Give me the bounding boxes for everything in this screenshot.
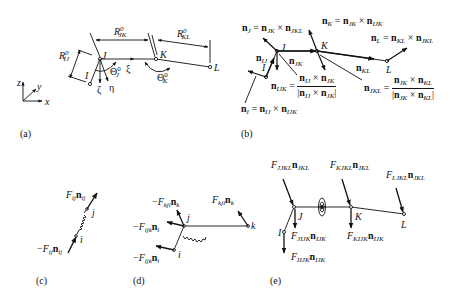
nJKL-formula: nJKL = nJK × nKL|nJK × nKL| — [364, 75, 434, 102]
dim-R-IJ: R0IJ — [59, 50, 69, 63]
nI-formula: nI = nIJ × nIJK — [241, 104, 297, 116]
c-node-j: j — [92, 208, 95, 218]
figure-canvas: z y x I J K L ξ ζ η R0IJ R0JK R0KL Θ0J Θ… — [0, 0, 450, 297]
e-force-K-IJK: FKIJKnIJK — [347, 231, 384, 243]
c-node-i: i — [80, 235, 83, 245]
d-force-3: −Fijkni — [133, 222, 159, 234]
b-node-J: J — [281, 43, 285, 53]
nKL-label: nKL — [356, 63, 370, 75]
dim-R-KL: R0KL — [177, 28, 190, 41]
panel-a-label: (a) — [20, 128, 31, 139]
d-force-4: −Fijkni — [133, 253, 159, 265]
e-node-I: I — [278, 228, 281, 238]
e-force-L-JKL: FLJKLnJKL — [386, 170, 425, 182]
nK-formula: nK = nJK × nIJK — [322, 16, 383, 28]
node-I-label: I — [85, 71, 88, 81]
c-force-bottom: −Fijnij — [37, 244, 62, 256]
e-force-K-JKL: FKJKLnJKL — [330, 160, 370, 172]
nL-formula: nL = nKL × nJKL — [371, 33, 433, 45]
eta-label: η — [109, 83, 114, 93]
nIJK-formula: nIJK = nIJ × nJK|nIJ × nJK| — [271, 73, 336, 100]
xi-label: ξ — [126, 64, 130, 74]
nJ-formula: nJ = nJK × nJKL — [242, 23, 303, 35]
angle-theta-K: Θ0K — [157, 72, 167, 85]
panel-d-graphics — [156, 210, 249, 251]
b-node-K: K — [321, 41, 328, 51]
nJK-label: nJK — [289, 56, 302, 68]
d-force-2: Fkjink — [212, 195, 234, 207]
e-node-K: K — [355, 212, 362, 222]
nIJ-label: nIJ — [256, 53, 267, 65]
e-force-I-IJK: FIIJKnIJK — [291, 252, 325, 264]
b-node-L: L — [386, 65, 392, 75]
axis-z-label: z — [17, 78, 21, 88]
node-J-label: J — [102, 51, 106, 61]
zeta-label: ζ — [97, 85, 101, 95]
dim-R-JK: R0JK — [114, 26, 126, 39]
angle-theta-J: Θ0J — [110, 66, 119, 79]
e-node-L: L — [401, 220, 407, 230]
e-force-J-JKL: FJJKLnJKL — [271, 160, 309, 172]
c-force-top: Fijnij — [66, 190, 85, 202]
panel-e-label: (e) — [270, 275, 281, 286]
d-node-j: j — [187, 213, 190, 223]
d-node-k: k — [251, 221, 255, 231]
node-L-label: L — [214, 63, 220, 73]
axis-x-label: x — [45, 97, 49, 107]
d-node-i: i — [178, 250, 181, 260]
panel-d-label: (d) — [133, 275, 145, 286]
axis-y-label: y — [37, 82, 41, 92]
panel-b-label: (b) — [241, 128, 253, 139]
node-K-label: K — [160, 50, 167, 60]
panel-c-label: (c) — [36, 275, 47, 286]
e-node-J: J — [298, 212, 302, 222]
d-force-1: −Fkjink — [152, 197, 179, 209]
e-force-J-IJK: FJIJKnIJK — [291, 231, 326, 243]
